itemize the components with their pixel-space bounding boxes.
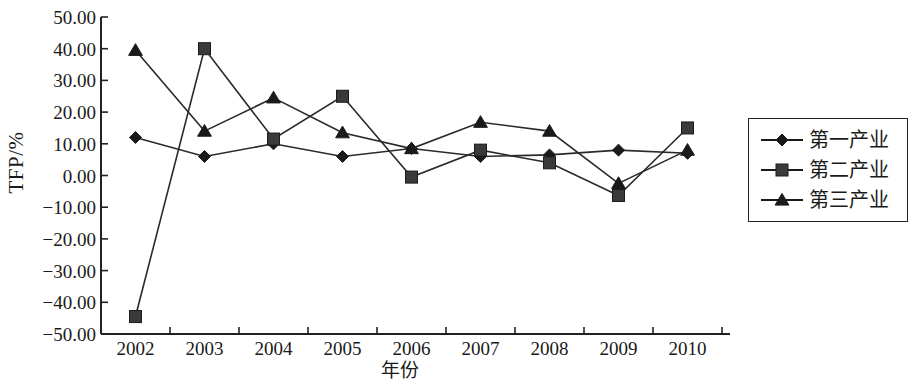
legend-item-square[interactable]: 第二产业 — [749, 155, 907, 185]
legend-item-diamond[interactable]: 第一产业 — [749, 125, 907, 155]
legend-key-glyph — [759, 129, 805, 151]
data-point-diamond-marker — [776, 134, 788, 146]
data-point-square-marker — [199, 43, 211, 55]
data-point-diamond-marker — [199, 150, 211, 162]
data-point-square-marker — [406, 171, 418, 183]
data-point-diamond-marker — [613, 144, 625, 156]
legend-square-icon — [759, 159, 805, 181]
data-point-square-marker — [475, 144, 487, 156]
legend-key-glyph — [759, 159, 805, 181]
legend-diamond-icon — [759, 129, 805, 151]
data-point-triangle-marker — [474, 116, 488, 128]
chart-legend: 第一产业第二产业第三产业 — [748, 118, 908, 222]
data-point-triangle-marker — [681, 144, 695, 156]
data-point-square-marker — [682, 122, 694, 134]
data-point-triangle-marker — [129, 44, 143, 56]
series-square — [130, 43, 694, 323]
data-point-square-marker — [613, 189, 625, 201]
data-point-square-marker — [544, 157, 556, 169]
data-point-diamond-marker — [337, 150, 349, 162]
legend-triangle-icon — [759, 189, 805, 211]
legend-key-glyph — [759, 189, 805, 211]
legend-item-label: 第三产业 — [805, 190, 889, 210]
legend-item-label: 第一产业 — [805, 130, 889, 150]
data-point-square-marker — [776, 164, 788, 176]
data-point-square-marker — [268, 133, 280, 145]
data-point-triangle-marker — [336, 126, 350, 138]
legend-item-label: 第二产业 — [805, 160, 889, 180]
data-point-square-marker — [130, 311, 142, 323]
data-point-square-marker — [337, 90, 349, 102]
chart-figure: TFP/% 50.0040.0030.0020.0010.000.00−10.0… — [0, 0, 916, 382]
series-line-triangle — [136, 50, 688, 183]
legend-item-triangle[interactable]: 第三产业 — [749, 185, 907, 215]
data-point-diamond-marker — [130, 131, 142, 143]
data-point-triangle-marker — [267, 91, 281, 103]
series-triangle — [129, 44, 695, 189]
data-point-triangle-marker — [612, 177, 626, 189]
